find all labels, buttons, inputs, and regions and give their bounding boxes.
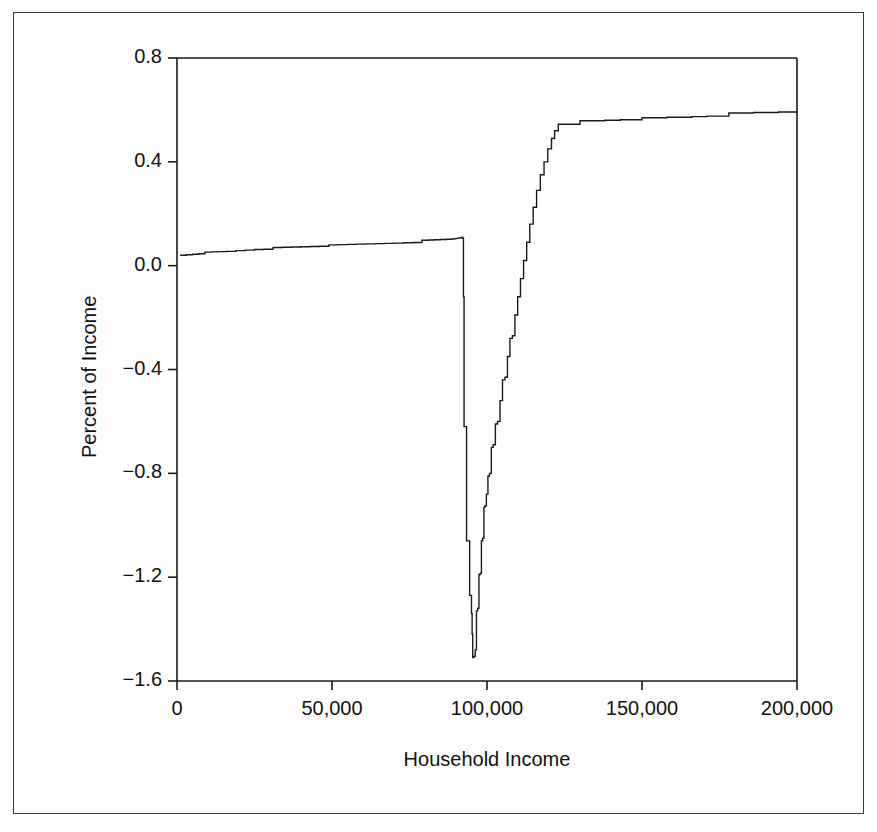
y-tick-label: −0.4 xyxy=(123,357,162,380)
y-tick-label: 0.8 xyxy=(134,45,162,68)
x-tick-label: 150,000 xyxy=(562,697,722,720)
x-tick-label: 100,000 xyxy=(407,697,567,720)
x-tick-label: 200,000 xyxy=(717,697,877,720)
y-axis-title: Percent of Income xyxy=(78,295,101,457)
y-tick-marks xyxy=(168,58,177,681)
y-tick-label: −1.2 xyxy=(123,564,162,587)
figure-container: 0.80.40.0−0.4−0.8−1.2−1.6 050,000100,000… xyxy=(0,0,877,832)
y-tick-label: 0.0 xyxy=(134,253,162,276)
x-tick-marks xyxy=(177,681,797,690)
plot-area: 0.80.40.0−0.4−0.8−1.2−1.6 050,000100,000… xyxy=(0,0,877,832)
y-tick-label: −0.8 xyxy=(123,460,162,483)
axis-lines xyxy=(177,58,797,681)
y-tick-label: 0.4 xyxy=(134,149,162,172)
y-tick-label: −1.6 xyxy=(123,668,162,691)
x-tick-label: 50,000 xyxy=(252,697,412,720)
x-tick-label: 0 xyxy=(97,697,257,720)
x-axis-title: Household Income xyxy=(97,748,877,771)
data-series-line xyxy=(180,111,797,657)
